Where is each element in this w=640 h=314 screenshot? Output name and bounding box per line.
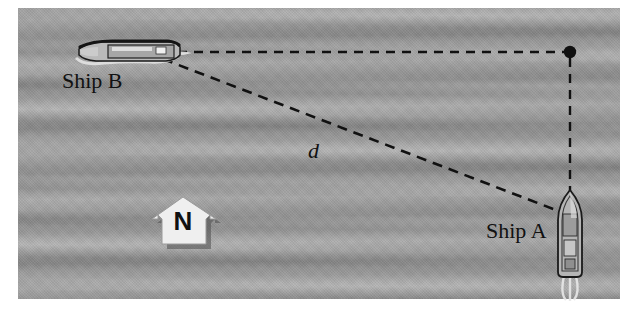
ship-side-view-icon [76, 41, 192, 64]
ship-top-view-icon [558, 190, 582, 301]
ship-a-label: Ship A [486, 220, 547, 242]
diagram-vector-layer [0, 0, 640, 314]
distance-label: d [308, 140, 319, 162]
ship-b-label: Ship B [62, 70, 123, 92]
diagram-canvas: N Ship B Ship A d [0, 0, 640, 314]
north-arrow-icon: N [140, 194, 226, 250]
vertex-dot-icon [564, 46, 576, 58]
distance-line [163, 59, 561, 212]
